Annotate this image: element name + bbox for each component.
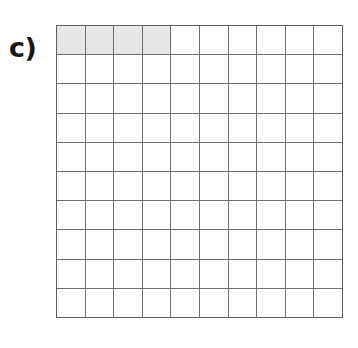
grid-cell: [257, 84, 286, 113]
grid-cell: [86, 289, 115, 318]
hundred-square-grid: [56, 25, 343, 318]
grid-cell: [143, 143, 172, 172]
grid-cell: [257, 114, 286, 143]
grid-cell: [143, 172, 172, 201]
grid-cell: [229, 230, 258, 259]
grid-cell: [200, 201, 229, 230]
grid-cell: [86, 55, 115, 84]
grid-cell: [114, 201, 143, 230]
grid-cell: [314, 114, 343, 143]
grid-cell: [114, 260, 143, 289]
grid-cell: [86, 230, 115, 259]
grid-cell: [286, 114, 315, 143]
grid-cell: [57, 172, 86, 201]
grid-cell: [114, 230, 143, 259]
grid-cell: [314, 172, 343, 201]
grid-cell: [314, 84, 343, 113]
grid-cell: [286, 201, 315, 230]
grid-cell: [171, 260, 200, 289]
grid-cell: [114, 114, 143, 143]
grid-cell: [229, 143, 258, 172]
grid-cell: [314, 201, 343, 230]
grid-cell: [143, 114, 172, 143]
grid-cell: [314, 26, 343, 55]
grid-cell: [286, 26, 315, 55]
grid-cell: [229, 26, 258, 55]
grid-cell: [86, 84, 115, 113]
grid-cell: [114, 143, 143, 172]
panel-label: c): [9, 28, 53, 66]
grid-cell: [200, 230, 229, 259]
grid-cell: [86, 260, 115, 289]
grid-cell: [57, 201, 86, 230]
grid-cell: [86, 143, 115, 172]
grid-cell: [171, 84, 200, 113]
grid-cell: [171, 172, 200, 201]
grid-cell: [286, 172, 315, 201]
grid-cell: [200, 172, 229, 201]
grid-cell: [143, 84, 172, 113]
grid-cell: [257, 230, 286, 259]
grid-cell: [257, 172, 286, 201]
grid-cell: [229, 289, 258, 318]
grid-container: [56, 25, 343, 318]
grid-cell: [143, 289, 172, 318]
grid-cell: [257, 201, 286, 230]
grid-cell: [86, 26, 115, 55]
grid-cell: [57, 84, 86, 113]
grid-cell: [171, 55, 200, 84]
grid-cell: [229, 84, 258, 113]
grid-cell: [171, 230, 200, 259]
grid-cell: [229, 55, 258, 84]
grid-cell: [229, 172, 258, 201]
grid-cell: [200, 114, 229, 143]
grid-cell: [114, 26, 143, 55]
grid-cell: [314, 260, 343, 289]
grid-cell: [286, 230, 315, 259]
grid-cell: [86, 172, 115, 201]
grid-cell: [171, 201, 200, 230]
grid-cell: [57, 55, 86, 84]
grid-cell: [314, 143, 343, 172]
grid-cell: [143, 26, 172, 55]
grid-cell: [114, 172, 143, 201]
grid-cell: [114, 84, 143, 113]
grid-cell: [57, 260, 86, 289]
grid-cell: [314, 289, 343, 318]
grid-cell: [229, 260, 258, 289]
grid-cell: [57, 114, 86, 143]
grid-cell: [171, 143, 200, 172]
grid-cell: [229, 201, 258, 230]
grid-cell: [200, 84, 229, 113]
grid-cell: [200, 26, 229, 55]
grid-cell: [200, 260, 229, 289]
grid-cell: [86, 201, 115, 230]
grid-cell: [286, 84, 315, 113]
grid-cell: [143, 201, 172, 230]
grid-cell: [143, 230, 172, 259]
grid-cell: [286, 55, 315, 84]
grid-cell: [257, 55, 286, 84]
grid-cell: [143, 55, 172, 84]
grid-cell: [257, 289, 286, 318]
grid-cell: [171, 114, 200, 143]
grid-cell: [286, 289, 315, 318]
grid-cell: [229, 114, 258, 143]
grid-cell: [57, 230, 86, 259]
grid-cell: [86, 114, 115, 143]
grid-cell: [314, 230, 343, 259]
hundred-square-figure: c): [0, 0, 358, 348]
grid-cell: [200, 55, 229, 84]
grid-cell: [286, 143, 315, 172]
grid-cell: [114, 289, 143, 318]
grid-cell: [286, 260, 315, 289]
grid-cell: [257, 260, 286, 289]
grid-cell: [171, 26, 200, 55]
grid-cell: [57, 26, 86, 55]
grid-cell: [143, 260, 172, 289]
grid-cell: [257, 143, 286, 172]
grid-cell: [57, 289, 86, 318]
grid-cell: [314, 55, 343, 84]
grid-cell: [114, 55, 143, 84]
grid-cell: [200, 289, 229, 318]
